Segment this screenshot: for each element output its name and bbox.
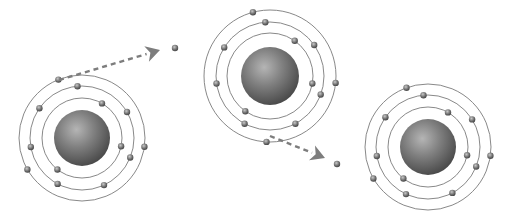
electron (24, 166, 30, 172)
electron (382, 114, 388, 120)
electron (292, 38, 298, 44)
electron (101, 182, 107, 188)
electron (213, 80, 219, 86)
electron (487, 153, 493, 159)
electron (141, 144, 147, 150)
atoms-layer (19, 9, 494, 210)
electron (309, 80, 315, 86)
electron (374, 153, 380, 159)
arrow-head-icon (309, 145, 325, 160)
electron (242, 108, 248, 114)
atom-right (365, 84, 494, 210)
dashed-arrow-line (59, 54, 147, 80)
electron (250, 9, 256, 15)
electron (221, 44, 227, 50)
electron (262, 19, 268, 25)
electron (420, 92, 426, 98)
electron (464, 152, 470, 158)
electron (469, 116, 475, 122)
electron (473, 163, 479, 169)
nucleus (241, 47, 299, 105)
electron (124, 109, 130, 115)
electron (318, 91, 324, 97)
diagram-canvas (0, 0, 510, 224)
free-electron (334, 161, 340, 167)
electron (99, 100, 105, 106)
electron-transfer-2 (270, 136, 340, 167)
electron-transfer-1 (59, 45, 178, 80)
electron (400, 175, 406, 181)
electron (292, 121, 298, 127)
electron (241, 121, 247, 127)
electron (54, 166, 60, 172)
electron (332, 80, 338, 86)
electron (445, 109, 451, 115)
electron (263, 139, 269, 145)
atom-left (19, 75, 148, 201)
electron (28, 144, 34, 150)
atom-diagram (0, 0, 510, 224)
electron (403, 191, 409, 197)
electron (403, 85, 409, 91)
electron (127, 154, 133, 160)
atom-middle (204, 9, 339, 145)
nucleus (400, 119, 456, 175)
electron (74, 83, 80, 89)
electron (36, 105, 42, 111)
free-electron (172, 45, 178, 51)
electron (118, 143, 124, 149)
electron (449, 190, 455, 196)
nucleus (54, 110, 110, 166)
electron (311, 42, 317, 48)
electron (370, 175, 376, 181)
arrow-head-icon (144, 46, 160, 61)
electron (54, 181, 60, 187)
